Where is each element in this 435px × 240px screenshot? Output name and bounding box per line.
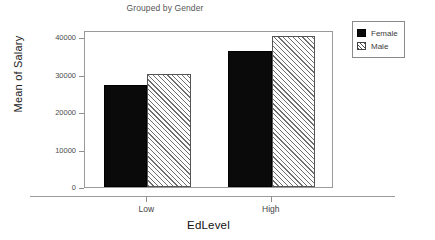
- y-tick-label: 30000: [55, 71, 76, 80]
- x-axis-line: [30, 196, 395, 197]
- legend-swatch-female-icon: [357, 29, 366, 37]
- y-tick-label: 0: [72, 183, 76, 192]
- y-axis: Mean of Salary 010000200003000040000: [0, 0, 84, 240]
- x-tick-label: High: [241, 204, 301, 214]
- legend-item-male[interactable]: Male: [357, 40, 398, 52]
- legend: Female Male: [352, 21, 405, 58]
- chart-canvas: Grouped by Gender Mean of Salary 0100002…: [0, 0, 435, 240]
- y-tick-label: 10000: [55, 146, 76, 155]
- bar-male-low: [147, 74, 191, 187]
- bar-female-high: [228, 51, 272, 187]
- y-tick-label: 20000: [55, 108, 76, 117]
- legend-label-male: Male: [371, 42, 388, 51]
- x-tick-label: Low: [116, 204, 176, 214]
- plot-area: [84, 31, 333, 188]
- y-tick-label: 40000: [55, 33, 76, 42]
- bar-female-low: [104, 85, 148, 187]
- bar-male-high: [272, 36, 316, 187]
- legend-swatch-male-icon: [357, 42, 366, 50]
- y-tick-mark: [79, 188, 84, 189]
- legend-label-female: Female: [371, 29, 398, 38]
- legend-item-female[interactable]: Female: [357, 27, 398, 39]
- bar-group: [85, 32, 332, 187]
- x-tick-mark: [146, 196, 147, 202]
- y-axis-title: Mean of Salary: [12, 19, 24, 129]
- x-tick-mark: [271, 196, 272, 202]
- x-axis-title: EdLevel: [84, 219, 333, 231]
